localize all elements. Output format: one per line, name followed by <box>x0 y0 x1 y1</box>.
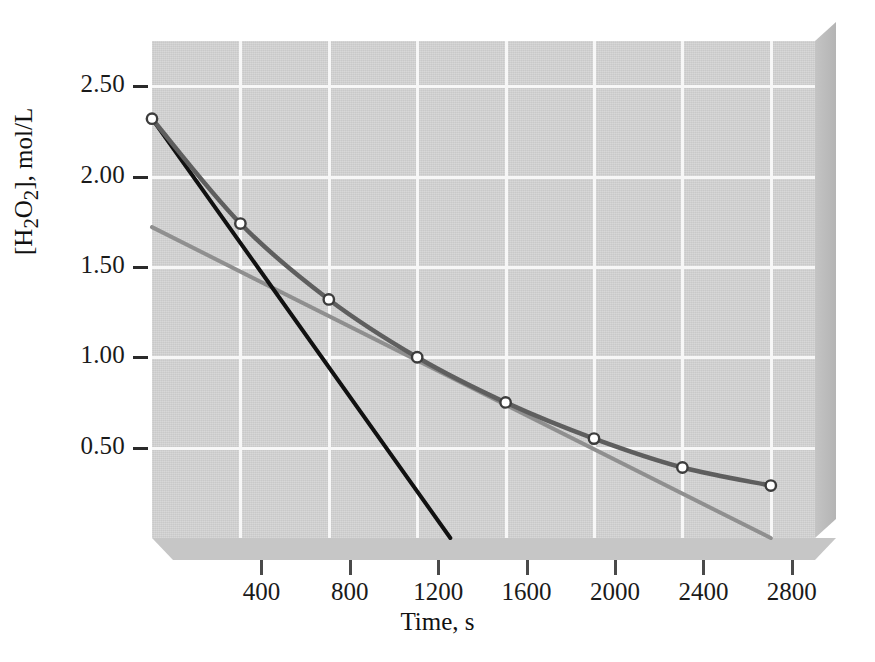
y-axis-title: [H2O2], mol/L <box>10 108 44 255</box>
x-axis-tick-mark <box>349 560 352 575</box>
x-axis-tick-label: 2800 <box>732 578 852 606</box>
x-axis-tick-mark <box>791 560 794 575</box>
y-axis-tick-label: 1.50 <box>55 251 125 279</box>
data-point-marker <box>589 433 599 443</box>
y-axis-tick-label: 2.00 <box>55 161 125 189</box>
series-line-concentration-curve <box>152 119 771 486</box>
y-axis-tick-label: 0.50 <box>55 432 125 460</box>
x-axis-tick-mark <box>260 560 263 575</box>
y-axis-tick-label: 1.00 <box>55 341 125 369</box>
chart-series-layer <box>152 41 815 538</box>
y-axis-tick-label: 2.50 <box>55 70 125 98</box>
x-axis-tick-mark <box>614 560 617 575</box>
data-point-marker <box>766 480 776 490</box>
y-axis-tick-mark <box>133 85 148 88</box>
x-axis-tick-mark <box>526 560 529 575</box>
y-axis-tick-mark <box>133 447 148 450</box>
y-axis-tick-mark <box>133 356 148 359</box>
data-point-marker <box>500 397 510 407</box>
y-axis-tick-mark <box>133 176 148 179</box>
data-point-marker <box>324 294 334 304</box>
series-line-initial-rate-tangent <box>152 119 450 538</box>
plot-bottom-face <box>152 538 836 560</box>
y-axis-tick-mark <box>133 266 148 269</box>
chart-figure: 0.501.001.502.002.50 4008001200160020002… <box>0 0 875 662</box>
x-axis-tick-mark <box>702 560 705 575</box>
data-point-marker <box>147 114 157 124</box>
x-axis-tick-mark <box>437 560 440 575</box>
x-axis-title: Time, s <box>0 608 875 636</box>
plot-right-face <box>815 22 836 538</box>
data-point-marker <box>235 218 245 228</box>
data-point-marker <box>677 462 687 472</box>
plot-area-3d <box>152 41 815 538</box>
data-point-marker <box>412 352 422 362</box>
